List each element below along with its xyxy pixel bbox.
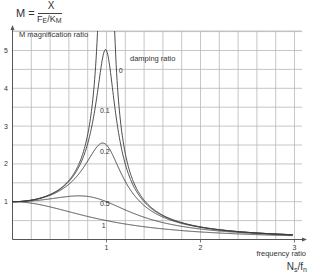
x-axis-arrow-icon (302, 238, 307, 242)
y-tick-label: 2 (4, 160, 8, 167)
formula-denominator: FE/KM (37, 14, 62, 24)
curve-label: 1 (102, 222, 106, 229)
y-tick-label: 3 (4, 123, 8, 130)
y-tick-label: 5 (4, 47, 8, 54)
x-tick-label: 2 (199, 244, 203, 251)
tick-labels: 12345123 (4, 47, 297, 251)
curve-label: 0.1 (100, 107, 110, 114)
curve-label: 0 (119, 67, 123, 74)
curve-damping-0 (110, 0, 293, 235)
y-tick-label: 1 (4, 198, 8, 205)
curve-label: 0.5 (100, 200, 110, 207)
curve-labels: 00.10.20.51 (100, 67, 123, 229)
y-axis-arrow-icon (11, 25, 15, 30)
y-axis-label: M magnification ratio (19, 30, 88, 39)
curve-damping-0-2 (13, 143, 293, 235)
x-tick-label: 1 (105, 244, 109, 251)
curve-label: 0.2 (100, 148, 110, 155)
curve-damping-1 (13, 202, 293, 236)
y-tick-label: 4 (4, 85, 8, 92)
legend-title: damping ratio (130, 54, 175, 63)
curve-damping-0-1 (13, 50, 293, 235)
x-axis-label: frequency ratio (256, 249, 306, 258)
magnification-chart: 00.10.20.51 12345123 M magnification rat… (0, 0, 312, 274)
x-axis-symbol: Ns/fn (287, 261, 307, 273)
formula-lhs: M = (16, 7, 35, 19)
formula-numerator: X (44, 0, 58, 11)
